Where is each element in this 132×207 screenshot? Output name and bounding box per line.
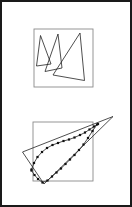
marked-lower-path-marker: [60, 167, 62, 169]
figure-canvas: [0, 0, 132, 207]
marked-upper-path-marker: [68, 138, 70, 140]
marked-lower-path-marker: [73, 154, 75, 156]
marked-lower-path-marker: [30, 169, 32, 171]
page-background: [0, 0, 132, 207]
marked-upper-path-marker: [33, 162, 35, 164]
marked-lower-path-marker: [41, 181, 43, 183]
marked-upper-path-marker: [46, 147, 48, 149]
marked-lower-path-marker: [46, 179, 48, 181]
figure-frame: [0, 0, 132, 207]
marked-upper-path-marker: [36, 156, 38, 158]
marked-upper-path-marker: [41, 151, 43, 153]
marked-upper-path-marker: [51, 144, 53, 146]
marked-upper-path-marker: [57, 142, 59, 144]
marked-lower-path-marker: [51, 175, 53, 177]
marked-lower-path-marker: [91, 130, 93, 132]
figure-page: [0, 0, 132, 207]
marked-lower-path-marker: [33, 174, 35, 176]
marked-lower-path-marker: [96, 123, 98, 125]
marked-lower-path-marker: [69, 158, 71, 160]
marked-lower-path-marker: [55, 171, 57, 173]
marked-upper-path-marker: [62, 140, 64, 142]
marked-lower-path-marker: [82, 143, 84, 145]
marked-upper-path-marker: [79, 134, 81, 136]
marked-lower-path-marker: [64, 163, 66, 165]
marked-lower-path-marker: [78, 149, 80, 151]
marked-upper-path-marker: [73, 136, 75, 138]
marked-lower-path-marker: [37, 178, 39, 180]
marked-upper-path-marker: [88, 128, 90, 130]
marked-lower-path-marker: [87, 137, 89, 139]
marked-upper-path-marker: [84, 131, 86, 133]
